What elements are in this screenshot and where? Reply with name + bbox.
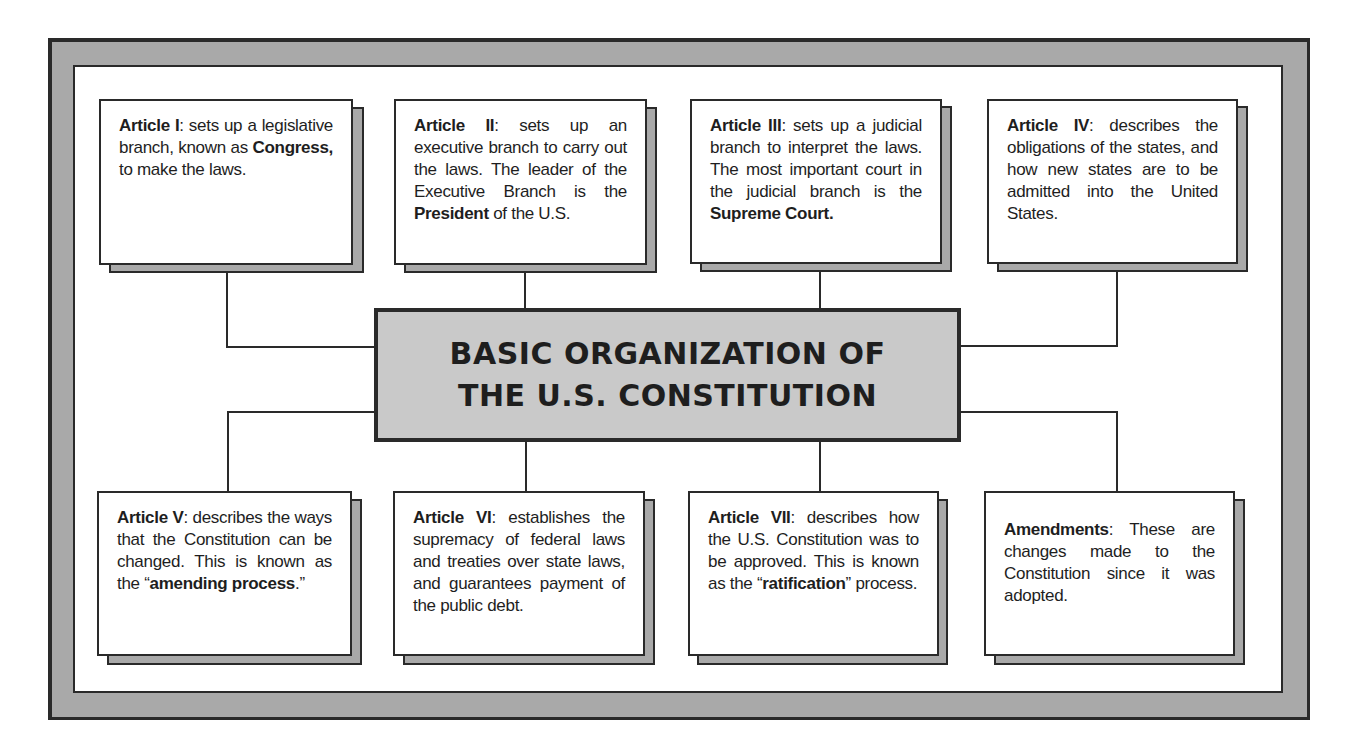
connector-article-1-h	[226, 346, 376, 348]
card-article-2: Article II: sets up an executive branch …	[394, 99, 647, 265]
card-article-1: Article I: sets up a legislative branch,…	[99, 99, 353, 265]
card-article-7: Article VII: describes how the U.S. Cons…	[688, 491, 939, 656]
card-emphasis-text: Article IV	[1007, 116, 1089, 135]
connector-article-6	[525, 440, 527, 492]
card-article-5: Article V: describes the ways that the C…	[97, 491, 352, 656]
card-amendments: Amendments: These are changes made to th…	[984, 491, 1235, 656]
card-body-text: of the U.S.	[489, 204, 570, 223]
card-emphasis-text: Article V	[117, 508, 183, 527]
card-emphasis-text: Article VII	[708, 508, 791, 527]
connector-article-1	[226, 272, 228, 348]
card-article-3: Article III: sets up a judicial branch t…	[690, 99, 942, 264]
card-article-4: Article IV: describes the obligations of…	[987, 99, 1238, 264]
card-emphasis-text: Congress,	[253, 138, 333, 157]
card-body-text: .”	[295, 574, 305, 593]
title-line-2: THE U.S. CONSTITUTION	[458, 375, 877, 417]
card-body-text: ” process.	[846, 574, 918, 593]
connector-amendments-h	[960, 411, 1118, 413]
card-emphasis-text: ratification	[762, 574, 845, 593]
title-line-1: BASIC ORGANIZATION OF	[450, 333, 886, 375]
card-article-6: Article VI: establishes the supremacy of…	[393, 491, 645, 656]
card-emphasis-text: Article II	[414, 116, 494, 135]
card-body-text: to make the laws.	[119, 160, 246, 179]
card-emphasis-text: Amendments	[1004, 520, 1109, 539]
card-emphasis-text: amending process	[150, 574, 295, 593]
card-emphasis-text: Article I	[119, 116, 179, 135]
connector-article-5	[227, 411, 229, 492]
connector-amendments	[1116, 411, 1118, 492]
card-emphasis-text: Article III	[710, 116, 781, 135]
card-emphasis-text: Article VI	[413, 508, 492, 527]
connector-article-4-h	[960, 345, 1118, 347]
connector-article-7	[819, 440, 821, 492]
connector-article-4	[1116, 271, 1118, 347]
connector-article-2	[524, 272, 526, 310]
card-emphasis-text: President	[414, 204, 489, 223]
connector-article-5-h	[227, 411, 376, 413]
center-title-box: BASIC ORGANIZATION OF THE U.S. CONSTITUT…	[374, 308, 961, 442]
connector-article-3	[819, 271, 821, 310]
card-emphasis-text: Supreme Court.	[710, 204, 833, 223]
